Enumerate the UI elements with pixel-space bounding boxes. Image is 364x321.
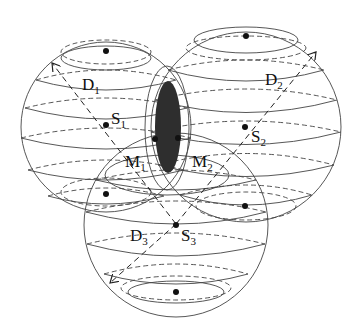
label-d3: D3 bbox=[130, 226, 148, 247]
pole-d1-bottom bbox=[103, 191, 109, 197]
pole-d2 bbox=[243, 33, 249, 39]
pole-d1 bbox=[103, 48, 109, 54]
diameter-d3 bbox=[110, 224, 176, 283]
label-s3: S3 bbox=[181, 226, 196, 247]
point-m1 bbox=[152, 136, 158, 142]
center-s3 bbox=[173, 222, 179, 228]
pole-d2-bottom bbox=[242, 203, 248, 209]
point-m2 bbox=[175, 135, 181, 141]
three-spheres-diagram: D1 S1 D2 S2 M1 M2 D3 S3 bbox=[0, 0, 364, 321]
label-s1: S1 bbox=[111, 109, 126, 130]
overlap-region bbox=[155, 81, 181, 173]
label-d1: D1 bbox=[82, 75, 100, 96]
center-s1 bbox=[103, 122, 109, 128]
center-s2 bbox=[242, 124, 248, 130]
pole-d3 bbox=[173, 289, 179, 295]
label-d2: D2 bbox=[265, 70, 283, 91]
label-s2: S2 bbox=[251, 127, 266, 148]
label-m1: M1 bbox=[125, 152, 146, 173]
diameter-d2 bbox=[176, 52, 316, 224]
